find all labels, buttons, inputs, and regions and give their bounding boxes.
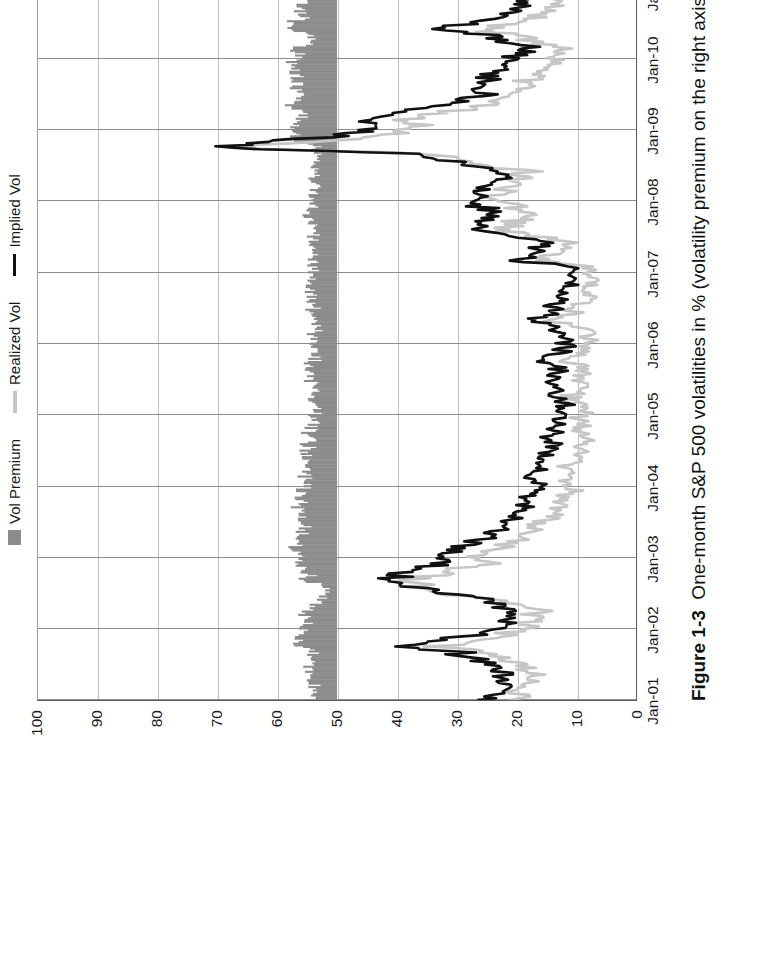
series-implied-vol xyxy=(215,0,578,700)
legend-item-implied-vol[interactable]: Implied Vol xyxy=(6,174,23,275)
realized-vol-swatch-icon xyxy=(13,391,17,413)
x-axis-tick-jan-07: Jan-07 xyxy=(644,250,662,297)
x-axis-tick-jan-05: Jan-05 xyxy=(644,392,662,439)
figure: Vol Premium Realized Vol Implied Vol xyxy=(0,0,758,758)
x-axis-tick-jan-04: Jan-04 xyxy=(644,464,662,511)
legend-label-implied-vol: Implied Vol xyxy=(6,174,23,247)
left-axis-tick-50: 50 xyxy=(328,710,346,750)
x-axis-tick-jan-10: Jan-10 xyxy=(644,36,662,83)
legend-label-realized-vol: Realized Vol xyxy=(6,302,23,385)
left-axis-tick-20: 20 xyxy=(508,710,526,750)
series-canvas xyxy=(38,0,636,700)
vol-premium-swatch-icon xyxy=(8,530,21,545)
x-axis-tick-jan-08: Jan-08 xyxy=(644,178,662,225)
left-axis-tick-70: 70 xyxy=(208,710,226,750)
x-axis-tick-jan-02: Jan-02 xyxy=(644,606,662,653)
left-axis-tick-80: 80 xyxy=(148,710,166,750)
legend-item-vol-premium[interactable]: Vol Premium xyxy=(6,439,23,545)
plot-area xyxy=(37,0,637,701)
x-axis-tick-jan-01: Jan-01 xyxy=(644,677,662,724)
legend-label-vol-premium: Vol Premium xyxy=(6,439,23,524)
x-axis-tick-jan-03: Jan-03 xyxy=(644,535,662,582)
series-vol-premium xyxy=(285,0,337,700)
implied-vol-swatch-icon xyxy=(13,254,16,276)
x-axis-tick-jan-06: Jan-06 xyxy=(644,321,662,368)
chart-legend: Vol Premium Realized Vol Implied Vol xyxy=(6,174,23,545)
figure-caption-text: One-month S&P 500 volatilities in % (vol… xyxy=(688,0,709,600)
left-axis-tick-100: 100 xyxy=(28,710,46,750)
figure-page: Vol Premium Realized Vol Implied Vol xyxy=(0,0,758,976)
left-axis-tick-40: 40 xyxy=(388,710,406,750)
x-axis-tick-jan-09: Jan-09 xyxy=(644,107,662,154)
left-axis-tick-90: 90 xyxy=(88,710,106,750)
rotated-figure-wrapper: Vol Premium Realized Vol Implied Vol xyxy=(0,0,758,758)
left-axis-tick-30: 30 xyxy=(448,710,466,750)
figure-caption-label: Figure 1-3 xyxy=(688,610,709,701)
figure-caption: Figure 1-3 One-month S&P 500 volatilitie… xyxy=(686,0,712,701)
x-axis-tick-jan-11: Jan-11 xyxy=(644,0,662,11)
left-axis-tick-10: 10 xyxy=(568,710,586,750)
legend-item-realized-vol[interactable]: Realized Vol xyxy=(6,302,23,413)
left-axis-tick-60: 60 xyxy=(268,710,286,750)
